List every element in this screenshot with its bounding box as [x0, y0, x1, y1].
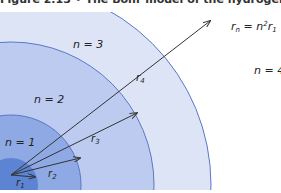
label-n1: n = 1	[5, 136, 35, 149]
label-n4: n = 4	[254, 64, 281, 77]
formula: rn = n2r1	[231, 20, 277, 34]
label-n3: n = 3	[73, 38, 103, 51]
label-n2: n = 2	[34, 93, 64, 106]
bohr-diagram: n = 1 n = 2 n = 3 n = 4 r1 r2 r3 r4 rn =…	[0, 0, 281, 193]
